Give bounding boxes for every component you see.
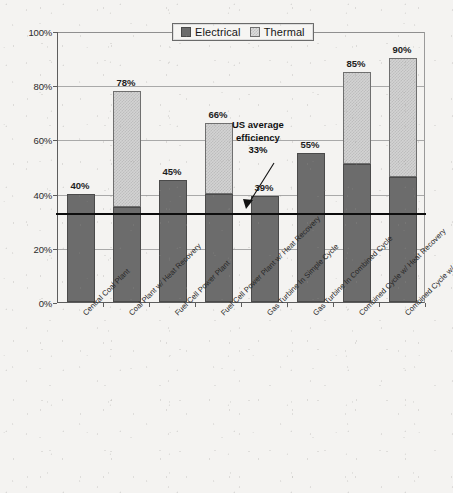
bar-segment-thermal[interactable] bbox=[205, 123, 234, 193]
legend-item-thermal: Thermal bbox=[250, 26, 305, 38]
bar-segment-thermal[interactable] bbox=[113, 91, 142, 208]
y-axis-tick-label: 60% bbox=[6, 135, 52, 146]
legend-swatch-electrical-icon bbox=[181, 27, 191, 37]
efficiency-bar-chart: Electrical Thermal US average efficiency… bbox=[0, 0, 453, 493]
bar-value-label: 90% bbox=[392, 44, 411, 55]
bar-value-label: 78% bbox=[116, 77, 135, 88]
bar-value-label: 45% bbox=[162, 166, 181, 177]
reference-line-annotation: US average efficiency 33% bbox=[232, 119, 284, 157]
us-average-efficiency-line bbox=[56, 213, 426, 216]
y-axis-tick-label: 0% bbox=[6, 298, 52, 309]
x-axis-tick-mark bbox=[333, 303, 334, 307]
legend-label-thermal: Thermal bbox=[264, 26, 305, 38]
y-axis-tick-label: 20% bbox=[6, 243, 52, 254]
bar-segment-electrical[interactable] bbox=[67, 194, 96, 302]
x-axis-tick-mark bbox=[241, 303, 242, 307]
legend-label-electrical: Electrical bbox=[195, 26, 241, 38]
bar-value-label: 40% bbox=[70, 180, 89, 191]
y-axis-tick-mark bbox=[53, 140, 57, 141]
bar-value-label: 66% bbox=[208, 109, 227, 120]
y-axis-tick-label: 100% bbox=[6, 27, 52, 38]
bar-value-label: 55% bbox=[300, 139, 319, 150]
y-axis-tick-mark bbox=[53, 303, 57, 304]
chart-legend: Electrical Thermal bbox=[172, 23, 314, 41]
y-axis-tick-mark bbox=[53, 86, 57, 87]
bar-segment-thermal[interactable] bbox=[343, 72, 372, 164]
x-axis-tick-mark bbox=[379, 303, 380, 307]
y-axis-tick-mark bbox=[53, 195, 57, 196]
annotation-line-1: US average bbox=[232, 119, 284, 132]
legend-item-electrical: Electrical bbox=[181, 26, 241, 38]
x-axis-tick-mark bbox=[287, 303, 288, 307]
x-axis-tick-mark bbox=[103, 303, 104, 307]
bar-column[interactable] bbox=[113, 31, 142, 302]
bar-value-label: 85% bbox=[346, 58, 365, 69]
bar-segment-electrical[interactable] bbox=[113, 207, 142, 302]
y-axis-tick-label: 40% bbox=[6, 189, 52, 200]
x-axis-tick-mark bbox=[149, 303, 150, 307]
y-axis-tick-label: 80% bbox=[6, 81, 52, 92]
x-axis-tick-mark bbox=[195, 303, 196, 307]
bar-column[interactable] bbox=[67, 31, 96, 302]
annotation-line-3: 33% bbox=[232, 144, 284, 157]
x-axis-tick-mark bbox=[425, 303, 426, 307]
legend-swatch-thermal-icon bbox=[250, 27, 260, 37]
bar-segment-thermal[interactable] bbox=[389, 58, 418, 177]
y-axis-tick-mark bbox=[53, 32, 57, 33]
y-axis-tick-mark bbox=[53, 249, 57, 250]
annotation-line-2: efficiency bbox=[232, 132, 284, 145]
bar-value-label: 39% bbox=[254, 182, 273, 193]
